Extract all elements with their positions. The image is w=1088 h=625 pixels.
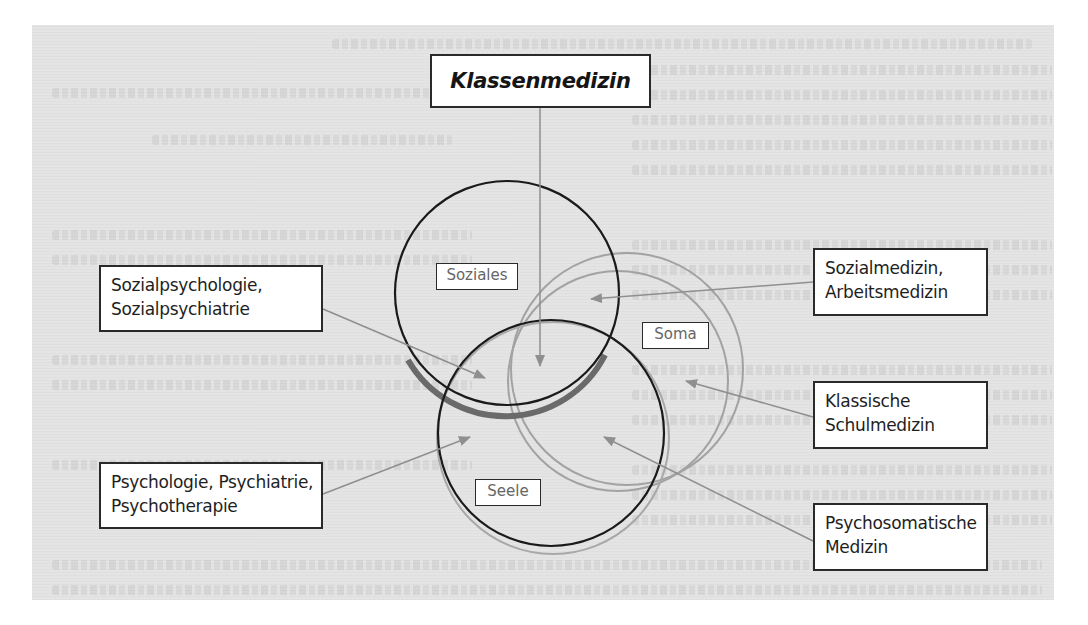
soma-circle [508, 253, 743, 491]
box-line: Medizin [825, 535, 976, 559]
klassische-schulmedizin-box: Klassische Schulmedizin [813, 381, 988, 449]
box-line: Psychotherapie [111, 494, 311, 518]
soziales-circle [395, 181, 619, 405]
psychologie-box: Psychologie, Psychiatrie, Psychotherapie [99, 462, 323, 529]
soziales-label: Soziales [436, 263, 518, 290]
soma-label: Soma [642, 322, 709, 349]
soziales-shadow [408, 355, 605, 416]
arrow-klassische [686, 381, 813, 417]
psychosomatische-medizin-box: Psychosomatische Medizin [813, 503, 988, 571]
arrow-sozialpsychologie [323, 309, 485, 378]
box-line: Sozialpsychologie, [111, 273, 311, 297]
sozialpsychologie-box: Sozialpsychologie, Sozialpsychiatrie [99, 265, 323, 332]
box-line: Arbeitsmedizin [825, 280, 976, 304]
box-line: Klassische [825, 389, 976, 413]
box-line: Psychologie, Psychiatrie, [111, 470, 311, 494]
box-line: Schulmedizin [825, 413, 976, 437]
box-line: Sozialpsychiatrie [111, 297, 311, 321]
seele-label: Seele [475, 479, 541, 506]
sozialmedizin-box: Sozialmedizin, Arbeitsmedizin [813, 248, 988, 316]
box-line: Psychosomatische [825, 511, 976, 535]
box-line: Sozialmedizin, [825, 256, 976, 280]
klassenmedizin-box: Klassenmedizin [430, 54, 651, 108]
arrow-sozialmedizin [591, 282, 813, 299]
